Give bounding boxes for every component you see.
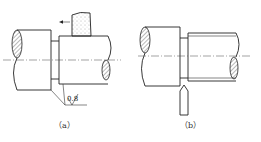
section-hatch xyxy=(102,60,110,80)
feed-arrow-left-icon xyxy=(59,20,70,23)
roughness-value: 0.8 xyxy=(67,95,78,103)
section-hatch xyxy=(12,30,22,58)
panel-b: （b） xyxy=(138,27,250,130)
section-hatch xyxy=(230,57,238,79)
section-hatch xyxy=(140,27,150,53)
diagram-canvas: 0.8 （a） （b） xyxy=(0,0,261,142)
caption-a: （a） xyxy=(54,121,75,130)
caption-b: （b） xyxy=(180,121,201,130)
panel-a: 0.8 （a） xyxy=(3,12,121,130)
grinding-wheel xyxy=(72,12,91,36)
left-shaft-b xyxy=(140,27,180,86)
grooving-cutter xyxy=(180,85,188,115)
right-shaft-b xyxy=(188,33,239,81)
groove-b xyxy=(180,33,188,81)
roughness-callout: 0.8 xyxy=(51,84,87,105)
